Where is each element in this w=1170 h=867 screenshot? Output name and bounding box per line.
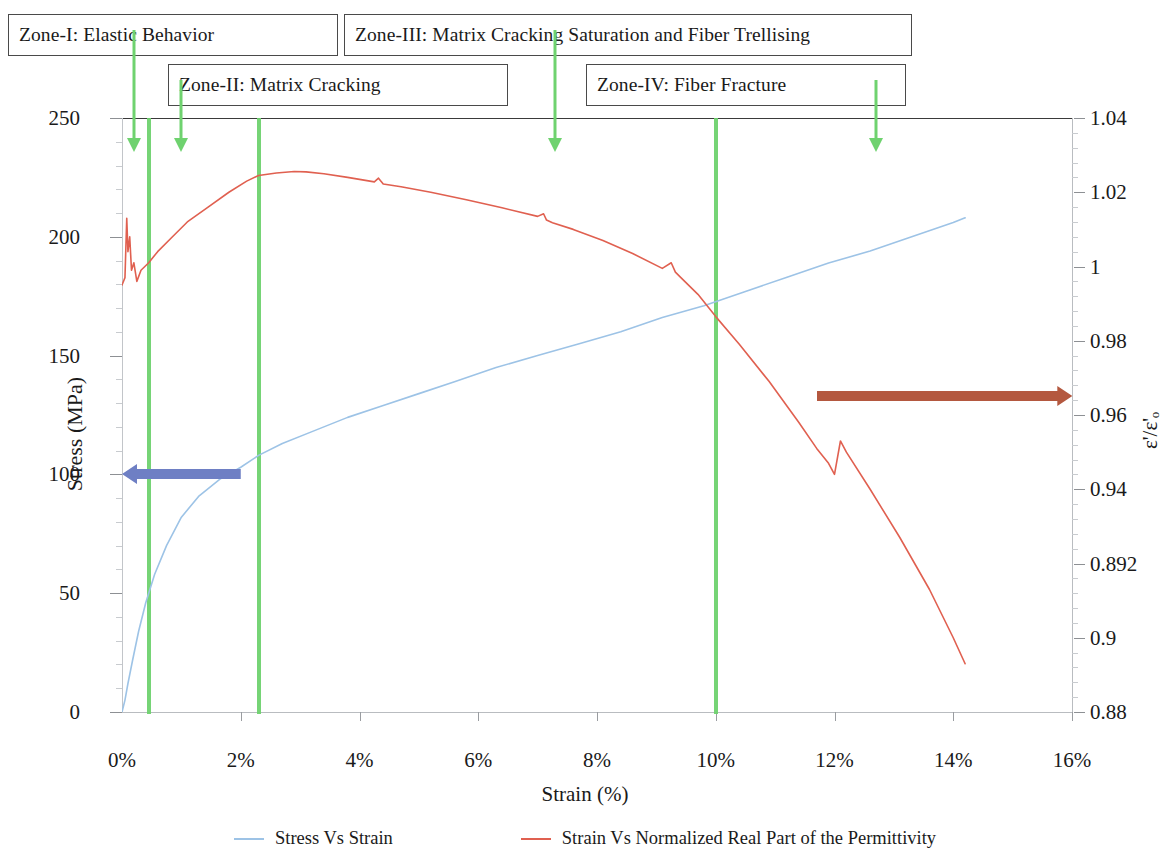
y-tick-label-right-4: 0.96: [1090, 403, 1170, 428]
y-minor-tick-right: [1072, 519, 1078, 520]
zone-2-label: Zone-II: Matrix Cracking: [179, 74, 381, 96]
y-minor-tick-right: [1072, 578, 1078, 579]
y-tick-label-right-1: 0.9: [1090, 625, 1170, 650]
y-tick-mark-right-3: [1074, 489, 1085, 490]
y-tick-label-right-2: 0.892: [1090, 551, 1170, 576]
y-tick-label-right-8: 1.04: [1090, 106, 1170, 131]
x-tick-label-5: 10%: [676, 748, 756, 773]
y-minor-tick-right: [1072, 430, 1078, 431]
zone-1-label: Zone-I: Elastic Behavior: [19, 24, 214, 46]
x-axis-label: Strain (%): [0, 782, 1170, 807]
y-minor-tick-right: [1072, 623, 1078, 624]
y-minor-tick-right: [1072, 177, 1078, 178]
zone-3-label: Zone-III: Matrix Cracking Saturation and…: [355, 24, 810, 46]
y-tick-label-right-0: 0.88: [1090, 700, 1170, 725]
x-tick-mark-7: [953, 712, 954, 721]
y-minor-tick-right: [1072, 148, 1078, 149]
x-tick-label-4: 8%: [557, 748, 637, 773]
y-minor-tick-right: [1072, 311, 1078, 312]
y-minor-tick-right: [1072, 608, 1078, 609]
chart-legend: Stress Vs Strain Strain Vs Normalized Re…: [0, 828, 1170, 849]
y-tick-mark-right-6: [1074, 267, 1085, 268]
x-tick-label-0: 0%: [82, 748, 162, 773]
y-tick-mark-right-7: [1074, 192, 1085, 193]
x-tick-mark-3: [478, 712, 479, 721]
y-minor-tick-right: [1072, 593, 1078, 594]
legend-swatch-permittivity: [521, 838, 551, 840]
zone-4-label: Zone-IV: Fiber Fracture: [597, 74, 786, 96]
y-tick-mark-left-5: [110, 118, 122, 119]
y-minor-tick-right: [1072, 222, 1078, 223]
x-tick-label-6: 12%: [795, 748, 875, 773]
y-tick-mark-left-4: [110, 237, 122, 238]
y-tick-label-left-5: 250: [0, 106, 80, 131]
y-tick-mark-right-2: [1074, 564, 1085, 565]
x-tick-mark-1: [241, 712, 242, 721]
y-minor-tick-right: [1072, 682, 1078, 683]
stress-vs-strain-curve: [122, 218, 965, 712]
y-tick-mark-right-1: [1074, 638, 1085, 639]
y-tick-label-right-5: 0.98: [1090, 328, 1170, 353]
y-minor-tick-right: [1072, 296, 1078, 297]
y-minor-tick-right: [1072, 356, 1078, 357]
y-minor-tick-right: [1072, 534, 1078, 535]
zone-2-annotation-box: Zone-II: Matrix Cracking: [168, 64, 508, 106]
legend-label-permittivity: Strain Vs Normalized Real Part of the Pe…: [562, 828, 936, 849]
y-tick-mark-left-2: [110, 474, 122, 475]
chart-plot-area: [122, 118, 1072, 712]
y-tick-mark-right-4: [1074, 415, 1085, 416]
y-minor-tick-right: [1072, 653, 1078, 654]
y-tick-mark-right-0: [1074, 712, 1085, 713]
legend-item-permittivity: Strain Vs Normalized Real Part of the Pe…: [521, 828, 936, 849]
y-minor-tick-right: [1072, 697, 1078, 698]
legend-label-stress: Stress Vs Strain: [275, 828, 393, 849]
x-tick-mark-4: [597, 712, 598, 721]
y-minor-tick-right: [1072, 445, 1078, 446]
x-tick-mark-8: [1072, 712, 1073, 721]
zone-4-annotation-box: Zone-IV: Fiber Fracture: [586, 64, 906, 106]
x-tick-label-7: 14%: [913, 748, 993, 773]
y-minor-tick-right: [1072, 252, 1078, 253]
zone-3-annotation-box: Zone-III: Matrix Cracking Saturation and…: [344, 14, 912, 56]
permittivity-range-arrow: [817, 385, 1072, 407]
y-tick-label-left-3: 150: [0, 343, 80, 368]
x-tick-label-2: 4%: [320, 748, 400, 773]
y-tick-label-right-6: 1: [1090, 254, 1170, 279]
legend-swatch-stress: [234, 838, 264, 840]
y-tick-mark-right-8: [1074, 118, 1085, 119]
y-minor-tick-right: [1072, 237, 1078, 238]
y-minor-tick-right: [1072, 504, 1078, 505]
y-minor-tick-right: [1072, 474, 1078, 475]
y-minor-tick-right: [1072, 667, 1078, 668]
y-minor-tick-right: [1072, 400, 1078, 401]
y-minor-tick-right: [1072, 281, 1078, 282]
y-tick-label-right-3: 0.94: [1090, 477, 1170, 502]
y-minor-tick-right: [1072, 385, 1078, 386]
permittivity-curve: [122, 171, 965, 663]
y-tick-label-left-4: 200: [0, 224, 80, 249]
y-minor-tick-right: [1072, 133, 1078, 134]
x-tick-mark-2: [360, 712, 361, 721]
y-tick-mark-left-1: [110, 593, 122, 594]
y-tick-label-left-2: 100: [0, 462, 80, 487]
legend-item-stress: Stress Vs Strain: [234, 828, 393, 849]
x-tick-label-8: 16%: [1032, 748, 1112, 773]
x-tick-mark-6: [835, 712, 836, 721]
y-tick-mark-left-0: [110, 712, 122, 713]
y-tick-label-left-0: 0: [0, 700, 80, 725]
y-minor-tick-right: [1072, 370, 1078, 371]
y-minor-tick-right: [1072, 549, 1078, 550]
zone-1-annotation-box: Zone-I: Elastic Behavior: [8, 14, 338, 56]
y-tick-mark-right-5: [1074, 341, 1085, 342]
y-tick-label-right-7: 1.02: [1090, 180, 1170, 205]
x-tick-label-1: 2%: [201, 748, 281, 773]
stress-range-arrow: [122, 463, 241, 485]
y-minor-tick-right: [1072, 326, 1078, 327]
y-tick-mark-left-3: [110, 356, 122, 357]
y-minor-tick-right: [1072, 460, 1078, 461]
x-tick-label-3: 6%: [438, 748, 518, 773]
y-minor-tick-right: [1072, 163, 1078, 164]
y-tick-label-left-1: 50: [0, 581, 80, 606]
y-minor-tick-right: [1072, 207, 1078, 208]
